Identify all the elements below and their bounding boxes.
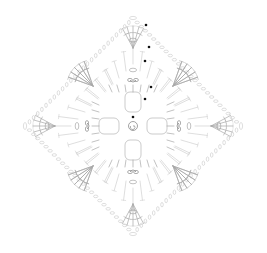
- round-start-marker: [148, 46, 151, 49]
- round-start-marker: [144, 60, 147, 63]
- round-start-marker: [144, 98, 147, 101]
- round-start-marker: [145, 24, 148, 27]
- round-start-marker: [150, 86, 153, 89]
- center-motif: [129, 122, 138, 131]
- round-start-marker: [132, 116, 135, 119]
- crochet-chart: [0, 0, 267, 253]
